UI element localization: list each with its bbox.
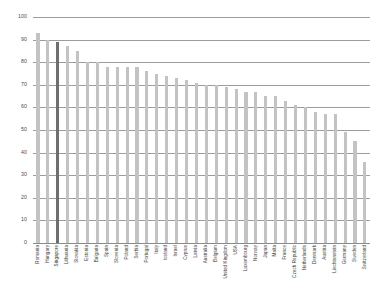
bar-slot[interactable] [132,17,142,243]
bar[interactable] [86,62,89,243]
bar[interactable] [76,51,79,243]
bar-slot[interactable] [281,17,291,243]
bar-slot[interactable] [271,17,281,243]
x-axis-tick-label: Slovakia [75,245,80,263]
bar-slot[interactable] [241,17,251,243]
bar-slot[interactable] [211,17,221,243]
y-axis-tick-label: 40 [21,150,27,155]
x-axis-tick-label: Japan [264,245,269,258]
bar-slot[interactable] [300,17,310,243]
x-axis-label-slot: Luxembourg [241,245,251,295]
x-axis-label-slot: Estonia [83,245,93,295]
x-axis-label-slot: Australia [201,245,211,295]
x-axis-tick-label: Norway [254,245,259,261]
bar[interactable] [135,67,138,243]
bar[interactable] [205,85,208,243]
bar-slot[interactable] [340,17,350,243]
bar-slot[interactable] [310,17,320,243]
bar-slot[interactable] [221,17,231,243]
bar-slot[interactable] [231,17,241,243]
bar[interactable] [334,114,337,243]
bar[interactable] [175,78,178,243]
bar-highlighted[interactable] [56,42,59,243]
bar[interactable] [353,141,356,243]
bar-slot[interactable] [182,17,192,243]
x-axis-label-slot: Denmark [310,245,320,295]
bar-slot[interactable] [142,17,152,243]
bar[interactable] [225,87,228,243]
bar-slot[interactable] [43,17,53,243]
bar-slot[interactable] [320,17,330,243]
bar-slot[interactable] [102,17,112,243]
bar-slot[interactable] [201,17,211,243]
bar[interactable] [294,105,297,243]
bar[interactable] [195,83,198,243]
x-axis-label-slot: Lithuania [63,245,73,295]
bar[interactable] [155,74,158,244]
bar-slot[interactable] [350,17,360,243]
bar-slot[interactable] [83,17,93,243]
bar-slot[interactable] [360,17,370,243]
bar-slot[interactable] [251,17,261,243]
x-axis-label-slot: Romania [33,245,43,295]
x-axis-label-slot: Portugal [142,245,152,295]
bar-slot[interactable] [112,17,122,243]
x-axis-label-slot: Serbia [132,245,142,295]
y-axis-tick-label: 90 [21,37,27,42]
bar-slot[interactable] [162,17,172,243]
y-axis-tick-label: 100 [18,14,27,19]
bar[interactable] [344,132,347,243]
bar-slot[interactable] [172,17,182,243]
bar[interactable] [145,71,148,243]
x-axis-tick-label: Romania [36,245,41,264]
bar[interactable] [235,89,238,243]
bar-slot[interactable] [261,17,271,243]
x-axis-label-slot: Bulgaria [92,245,102,295]
bar[interactable] [215,85,218,243]
x-axis-tick-label: Estonia [85,245,90,261]
bar[interactable] [284,101,287,243]
y-axis-tick-label: 20 [21,195,27,200]
bar[interactable] [254,92,257,243]
x-axis-label-slot: Belgium [211,245,221,295]
x-axis-label-slot: Japan [261,245,271,295]
bar[interactable] [274,96,277,243]
bar-slot[interactable] [330,17,340,243]
bar[interactable] [126,67,129,243]
x-axis-label-slot: USA [231,245,241,295]
bar[interactable] [36,33,39,243]
bar[interactable] [264,96,267,243]
x-axis-tick-label: Austria [323,245,328,260]
bar[interactable] [324,114,327,243]
bar[interactable] [106,67,109,243]
bar-slot[interactable] [192,17,202,243]
bar[interactable] [244,92,247,243]
bar-slot[interactable] [291,17,301,243]
x-axis-tick-label: Iceland [164,245,169,260]
bar[interactable] [165,76,168,243]
y-axis-tick-label: 0 [24,240,27,245]
bar-slot[interactable] [63,17,73,243]
bar[interactable] [66,46,69,243]
bar-slot[interactable] [53,17,63,243]
bar[interactable] [116,67,119,243]
bar-slot[interactable] [92,17,102,243]
bar[interactable] [96,62,99,243]
x-axis-tick-label: Italy [155,245,160,254]
x-axis-label-slot: Slovenia [112,245,122,295]
bar-slot[interactable] [152,17,162,243]
x-axis-label-slot: United Kingdom [221,245,231,295]
x-axis-tick-label: Lithuania [65,245,70,264]
x-axis-tick-label: Denmark [313,245,318,264]
bar-slot[interactable] [33,17,43,243]
bar[interactable] [46,40,49,243]
x-axis-label-slot: Czech Republic [291,245,301,295]
bar-slot[interactable] [73,17,83,243]
x-axis-label-slot: Netherlands [300,245,310,295]
bar-slot[interactable] [122,17,132,243]
bar[interactable] [314,112,317,243]
bar[interactable] [304,107,307,243]
x-axis-tick-label: Hungary [46,245,51,263]
bar[interactable] [185,80,188,243]
bar[interactable] [363,162,366,243]
